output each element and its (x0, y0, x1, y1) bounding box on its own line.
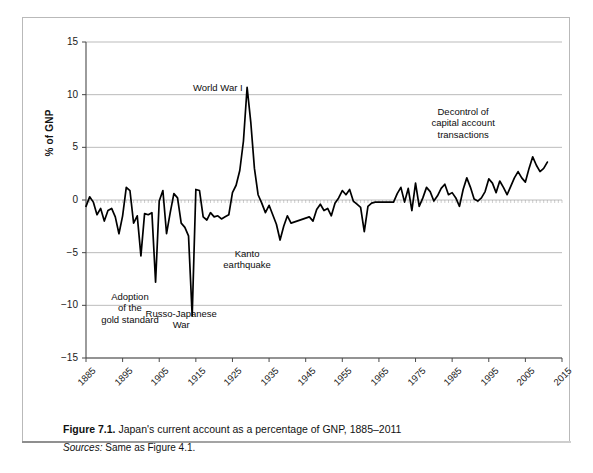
y-tick-label: −10 (52, 299, 78, 310)
y-tick-label: 10 (52, 89, 78, 100)
annotation-line: Decontrol of (431, 106, 494, 118)
data-line-gap-connector (291, 217, 309, 223)
annotation-line: transactions (431, 129, 494, 141)
y-tick-label: −15 (52, 352, 78, 363)
y-tick-label: 0 (52, 194, 78, 205)
annotation-line: Adoption (101, 291, 159, 303)
annotation-line: War (146, 319, 217, 331)
figure-frame: % of GNP 151050−5−10−1518851895190519151… (22, 17, 570, 442)
annotation-line: capital account (431, 117, 494, 129)
annotation-line: Russo-Japanese (146, 308, 217, 320)
figure-page: % of GNP 151050−5−10−1518851895190519151… (0, 0, 593, 473)
caption-line: Figure 7.1. Japan's current account as a… (63, 422, 533, 437)
annotation-decontrol-of-capital-account-transactions: Decontrol ofcapital accounttransactions (431, 106, 494, 141)
caption-label: Figure 7.1. (63, 423, 116, 435)
sources-label: Sources: (63, 442, 102, 453)
y-tick-label: 15 (52, 36, 78, 47)
figure-caption: Figure 7.1. Japan's current account as a… (63, 422, 533, 455)
annotation-line: Kanto (223, 248, 271, 260)
sources-text: Same as Figure 4.1. (105, 442, 195, 453)
annotation-kanto-earthquake: Kantoearthquake (223, 248, 271, 271)
y-tick-label: −5 (52, 247, 78, 258)
data-line (309, 157, 547, 232)
annotation-russo-japanese-war: Russo-JapaneseWar (146, 308, 217, 331)
annotation-world-war-i: World War I (193, 82, 243, 94)
annotation-line: earthquake (223, 259, 271, 271)
chart-plot-region: % of GNP 151050−5−10−1518851895190519151… (46, 28, 570, 373)
annotation-line: World War I (193, 82, 243, 94)
caption-text: Japan's current account as a percentage … (118, 423, 401, 435)
y-tick-label: 5 (52, 141, 78, 152)
caption-divider (22, 441, 571, 443)
